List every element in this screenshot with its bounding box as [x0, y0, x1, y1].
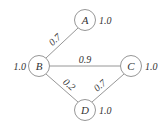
- node-c-label: C: [127, 60, 135, 72]
- edge-label-c-d: 0.7: [91, 76, 108, 93]
- node-b-label: B: [36, 60, 43, 72]
- edge-label-a-b: 0.7: [46, 30, 63, 47]
- node-a: A 1.0: [75, 10, 112, 31]
- node-c: C 1.0: [121, 56, 158, 77]
- node-b: B 1.0: [14, 56, 50, 77]
- node-d-label: D: [80, 104, 89, 116]
- node-d-weight: 1.0: [99, 105, 112, 116]
- edge-label-b-c: 0.9: [79, 54, 92, 65]
- node-b-weight: 1.0: [14, 61, 27, 72]
- node-d: D 1.0: [75, 100, 112, 121]
- node-c-weight: 1.0: [145, 61, 158, 72]
- node-a-weight: 1.0: [99, 15, 112, 26]
- graph-diagram: 0.7 0.9 0.2 0.7 A 1.0 B 1.0 C 1.0 D 1.0: [0, 0, 168, 130]
- node-a-label: A: [81, 14, 89, 26]
- edge-label-b-d: 0.2: [61, 76, 78, 93]
